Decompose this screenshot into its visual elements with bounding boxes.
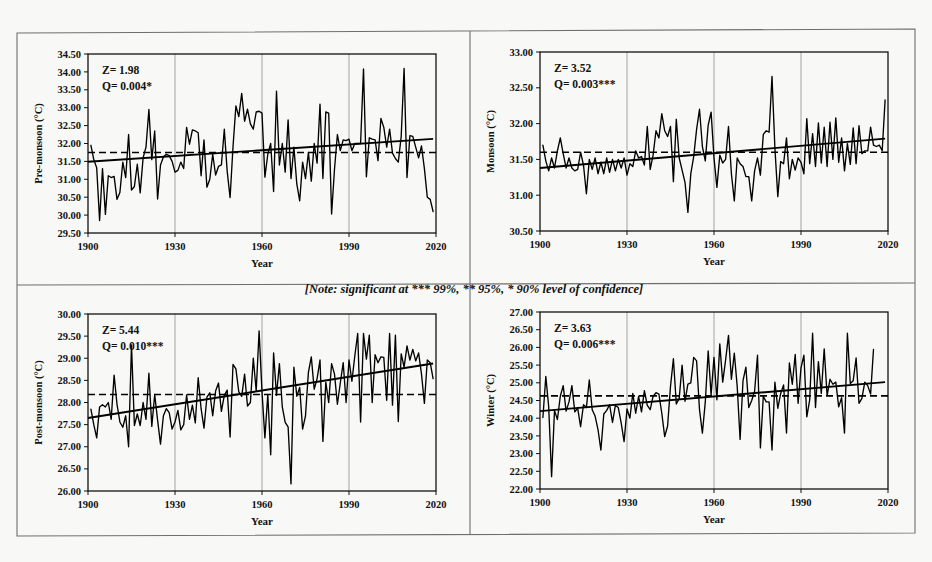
y-tick-label: 33.50	[57, 84, 81, 95]
x-tick-label: 1960	[704, 239, 725, 250]
y-tick-label: 30.50	[57, 192, 81, 203]
x-tick-label: 2020	[426, 241, 447, 252]
x-tick-label: 1930	[617, 239, 638, 250]
x-tick-label: 1900	[78, 241, 99, 252]
x-tick-label: 1990	[791, 497, 812, 508]
y-tick-label: 26.00	[509, 342, 533, 353]
chart-panel-post-monsoon: 30.0029.5029.0028.5028.0027.5027.0026.50…	[33, 309, 447, 527]
z-statistic-label: Z= 1.98	[102, 64, 139, 76]
y-tick-label: 24.50	[509, 395, 533, 406]
y-tick-label: 32.00	[57, 138, 81, 149]
y-tick-label: 29.50	[57, 331, 81, 342]
y-tick-label: 26.50	[57, 463, 81, 474]
y-tick-label: 34.50	[57, 49, 81, 60]
q-statistic-label: Q= 0.006***	[554, 338, 616, 350]
x-axis-title: Year	[703, 513, 725, 525]
z-statistic-label: Z= 5.44	[102, 324, 139, 336]
y-axis-title: Pre-monsoon (°C)	[33, 103, 45, 184]
z-statistic-label: Z= 3.63	[554, 322, 591, 334]
y-tick-label: 23.00	[509, 448, 533, 459]
x-tick-label: 1960	[704, 497, 725, 508]
y-tick-label: 26.00	[57, 486, 81, 497]
y-tick-label: 26.50	[509, 324, 533, 335]
x-tick-label: 1900	[530, 497, 551, 508]
y-tick-label: 32.50	[509, 82, 533, 93]
y-tick-label: 33.00	[509, 47, 533, 58]
chart-panel-monsoon: 33.0032.5032.0031.5031.0030.501900193019…	[485, 47, 899, 267]
x-tick-label: 1990	[339, 499, 360, 510]
temperature-series-line	[543, 333, 874, 476]
x-tick-label: 1990	[339, 241, 360, 252]
y-tick-label: 22.50	[509, 466, 533, 477]
y-tick-label: 24.00	[509, 413, 533, 424]
y-tick-label: 27.00	[509, 307, 533, 318]
q-statistic-label: Q= 0.004*	[102, 80, 152, 92]
y-tick-label: 31.50	[57, 156, 81, 167]
y-tick-label: 34.00	[57, 67, 81, 78]
y-tick-label: 31.50	[509, 154, 533, 165]
x-tick-label: 1990	[791, 239, 812, 250]
x-axis-title: Year	[703, 255, 725, 267]
seasonal-temperature-trend-figure: 34.5034.0033.5033.0032.5032.0031.5031.00…	[0, 0, 932, 562]
y-tick-label: 32.00	[509, 118, 533, 129]
x-tick-label: 1960	[252, 241, 273, 252]
y-tick-label: 23.50	[509, 431, 533, 442]
y-tick-label: 31.00	[509, 190, 533, 201]
x-tick-label: 1900	[78, 499, 99, 510]
y-tick-label: 29.50	[57, 228, 81, 239]
x-tick-label: 1930	[165, 499, 186, 510]
x-tick-label: 2020	[426, 499, 447, 510]
y-tick-label: 30.00	[57, 210, 81, 221]
y-tick-label: 33.00	[57, 102, 81, 113]
q-statistic-label: Q= 0.010***	[102, 340, 164, 352]
x-tick-label: 2020	[878, 497, 899, 508]
chart-panel-winter: 27.0026.5026.0025.5025.0024.5024.0023.50…	[485, 307, 899, 525]
q-statistic-label: Q= 0.003***	[554, 78, 616, 90]
x-axis-title: Year	[251, 515, 273, 527]
y-tick-label: 31.00	[57, 174, 81, 185]
chart-panel-pre-monsoon: 34.5034.0033.5033.0032.5032.0031.5031.00…	[33, 49, 447, 269]
x-tick-label: 1960	[252, 499, 273, 510]
y-tick-label: 29.00	[57, 353, 81, 364]
y-tick-label: 30.50	[509, 226, 533, 237]
x-tick-label: 1900	[530, 239, 551, 250]
y-axis-title: Monsoon (°C)	[485, 110, 497, 173]
significance-note: [Note: significant at *** 99%, ** 95%, *…	[305, 282, 643, 296]
z-statistic-label: Z= 3.52	[554, 62, 591, 74]
trend-line	[88, 139, 433, 162]
y-tick-label: 27.00	[57, 441, 81, 452]
y-tick-label: 28.50	[57, 375, 81, 386]
y-tick-label: 25.00	[509, 377, 533, 388]
y-tick-label: 27.50	[57, 419, 81, 430]
y-tick-label: 25.50	[509, 360, 533, 371]
x-tick-label: 2020	[878, 239, 899, 250]
y-axis-title: Post-monsoon (°C)	[33, 360, 45, 445]
x-tick-label: 1930	[617, 497, 638, 508]
y-tick-label: 32.50	[57, 120, 81, 131]
x-axis-title: Year	[251, 257, 273, 269]
x-tick-label: 1930	[165, 241, 186, 252]
y-axis-title: Winter (°C)	[485, 373, 497, 427]
y-tick-label: 22.00	[509, 484, 533, 495]
y-tick-label: 28.00	[57, 397, 81, 408]
y-tick-label: 30.00	[57, 309, 81, 320]
